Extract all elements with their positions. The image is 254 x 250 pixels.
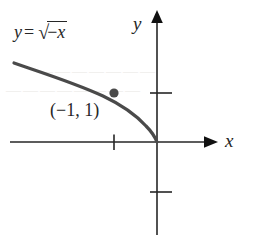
equation-label: y=√−x	[14, 21, 67, 42]
radical-expression: √−x	[37, 21, 67, 42]
point-coordinate-label: (−1, 1)	[50, 101, 99, 119]
x-axis-label: x	[225, 131, 233, 150]
point-label-text: (−1, 1)	[50, 100, 99, 120]
y-axis-label: y	[133, 14, 141, 33]
plotted-point-marker	[109, 88, 118, 97]
y-axis-arrowhead	[151, 10, 163, 23]
radicand-variable: x	[57, 22, 65, 42]
x-axis-arrowhead	[204, 136, 218, 148]
radicand-minus-sign: −	[47, 22, 57, 42]
radicand: −x	[47, 21, 67, 41]
equation-relation: =	[22, 22, 37, 42]
equation-lhs: y	[14, 22, 22, 42]
figure-container: ——————— ———————— y x y=√−x (−1, 1)	[0, 0, 254, 250]
